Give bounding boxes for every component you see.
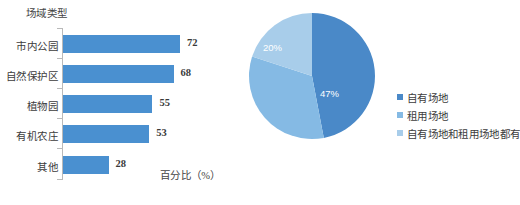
axis-tick bbox=[57, 28, 62, 29]
pie-chart: 47% 33% 20% 自有场地 租用场地 自有场地和租用场地都有 bbox=[244, 0, 514, 205]
legend-swatch-icon bbox=[397, 94, 403, 100]
bar-value-label: 28 bbox=[116, 158, 127, 169]
legend-label: 租用场地 bbox=[407, 108, 448, 123]
bar-category-label: 自然保护区 bbox=[6, 68, 58, 83]
legend-label: 自有场地 bbox=[407, 90, 448, 105]
pie-chart-legend: 自有场地 租用场地 自有场地和租用场地都有 bbox=[397, 88, 517, 142]
bar-chart-y-axis-title: 场域类型 bbox=[26, 5, 68, 20]
legend-label: 自有场地和租用场地都有 bbox=[407, 126, 520, 141]
legend-swatch-icon bbox=[397, 112, 403, 118]
bar-market bbox=[63, 156, 109, 174]
bar-row: 市内公园 72 bbox=[0, 30, 250, 60]
bar-category-label: 其他 bbox=[37, 159, 58, 174]
pie-percent-label-both: 20% bbox=[263, 42, 282, 53]
bar-category-label: 有机农庄 bbox=[16, 128, 58, 143]
bar-value-label: 55 bbox=[159, 97, 170, 108]
bar-chart-x-axis-title: 百分比（%） bbox=[160, 167, 221, 182]
pie-percent-label-owned: 47% bbox=[320, 88, 339, 99]
bar-value-label: 72 bbox=[187, 37, 198, 48]
legend-item-both[interactable]: 自有场地和租用场地都有 bbox=[397, 124, 517, 142]
bar-row: 植物园 55 bbox=[0, 90, 250, 120]
bar-chart: 场域类型 市内公园 72 自然保护区 68 植物园 55 有机农庄 bbox=[0, 0, 250, 205]
bar-row: 自然保护区 68 bbox=[0, 60, 250, 90]
bar-market bbox=[63, 65, 174, 83]
legend-item-rented[interactable]: 租用场地 bbox=[397, 106, 517, 124]
bar-category-label: 市内公园 bbox=[16, 38, 58, 53]
legend-swatch-icon bbox=[397, 130, 403, 136]
legend-item-owned[interactable]: 自有场地 bbox=[397, 88, 517, 106]
pie-slice-owned bbox=[312, 13, 375, 138]
bar-value-label: 68 bbox=[181, 67, 192, 78]
bar-row: 有机农庄 53 bbox=[0, 120, 250, 150]
bar-category-label: 植物园 bbox=[27, 98, 58, 113]
bar-market bbox=[63, 95, 152, 113]
bar-market bbox=[63, 35, 180, 53]
pie-percent-label-rented: 33% bbox=[252, 125, 271, 136]
bar-value-label: 53 bbox=[156, 127, 167, 138]
bar-market bbox=[63, 125, 149, 143]
